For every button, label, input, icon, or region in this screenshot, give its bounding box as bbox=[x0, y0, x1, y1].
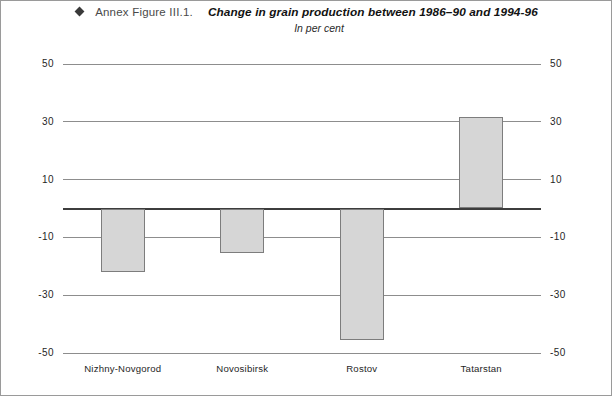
y-axis-tick-right--10: -10 bbox=[550, 232, 566, 242]
figure-number: Annex Figure III.1. bbox=[95, 6, 193, 18]
bar-rostov bbox=[340, 209, 384, 340]
diamond-bullet-icon bbox=[75, 7, 85, 17]
y-axis-tick-left--30: -30 bbox=[38, 290, 54, 300]
y-axis-tick-right--50: -50 bbox=[550, 348, 566, 358]
gridline--50 bbox=[63, 353, 541, 354]
figure-title: Change in grain production between 1986–… bbox=[208, 5, 538, 19]
chart-plot-area: 505030301010-10-10-30-30-50-50Nizhny-Nov… bbox=[63, 64, 541, 353]
y-axis-tick-right-30: 30 bbox=[550, 117, 562, 127]
bar-nizhny-novgorod bbox=[101, 209, 145, 273]
x-axis-label-tatarstan: Tatarstan bbox=[422, 363, 542, 374]
y-axis-tick-left--50: -50 bbox=[38, 348, 54, 358]
gridline--30 bbox=[63, 295, 541, 296]
y-axis-tick-right--30: -30 bbox=[550, 290, 566, 300]
y-axis-tick-right-10: 10 bbox=[550, 175, 562, 185]
figure-page: Annex Figure III.1. Change in grain prod… bbox=[0, 0, 612, 396]
figure-header-line: Annex Figure III.1. Change in grain prod… bbox=[1, 5, 612, 19]
bar-tatarstan bbox=[459, 117, 503, 208]
y-axis-tick-left-10: 10 bbox=[42, 175, 54, 185]
figure-subtitle: In per cent bbox=[1, 22, 612, 34]
y-axis-tick-left-30: 30 bbox=[42, 117, 54, 127]
x-axis-label-novosibirsk: Novosibirsk bbox=[183, 363, 303, 374]
figure-header: Annex Figure III.1. Change in grain prod… bbox=[1, 5, 612, 34]
gridline-50 bbox=[63, 64, 541, 65]
bar-novosibirsk bbox=[220, 209, 264, 254]
y-axis-tick-left--10: -10 bbox=[38, 232, 54, 242]
x-axis-label-rostov: Rostov bbox=[302, 363, 422, 374]
y-axis-tick-right-50: 50 bbox=[550, 59, 562, 69]
y-axis-tick-left-50: 50 bbox=[42, 59, 54, 69]
x-axis-label-nizhny-novgorod: Nizhny-Novgorod bbox=[63, 363, 183, 374]
